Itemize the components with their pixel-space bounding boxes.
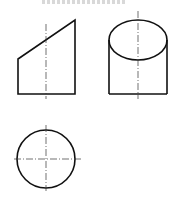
front-view xyxy=(18,20,75,99)
front-view-outline xyxy=(18,20,75,94)
orthographic-drawing xyxy=(0,0,175,198)
top-view xyxy=(14,125,82,191)
side-view xyxy=(109,11,167,99)
